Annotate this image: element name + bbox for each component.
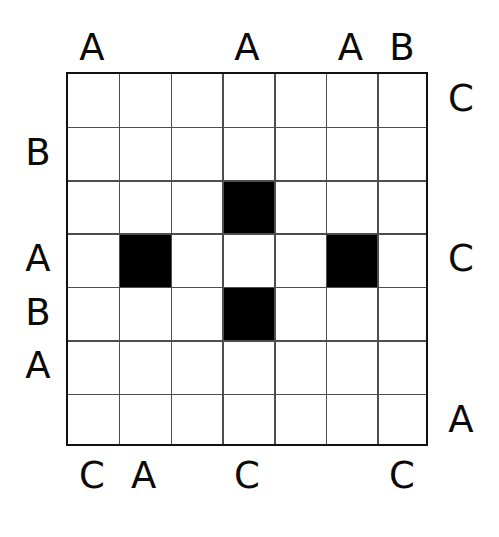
top-label-col-2 xyxy=(118,26,170,68)
left-label-row-2: B xyxy=(14,125,62,178)
bottom-label-col-7: C xyxy=(376,454,428,496)
gridline-horizontal-5 xyxy=(68,340,426,342)
gridline-horizontal-1 xyxy=(68,127,426,129)
grid-inner xyxy=(68,74,426,444)
bottom-label-col-3 xyxy=(169,454,221,496)
gridline-horizontal-3 xyxy=(68,233,426,235)
left-label-row-5: B xyxy=(14,286,62,339)
right-label-row-5 xyxy=(437,286,485,339)
bottom-label-col-5 xyxy=(273,454,325,496)
grid-cell-filled-r3-c4[interactable] xyxy=(223,181,275,234)
left-label-row-3 xyxy=(14,179,62,232)
gridline-horizontal-2 xyxy=(68,180,426,182)
right-label-row-6 xyxy=(437,339,485,392)
gridline-vertical-5 xyxy=(326,74,328,444)
top-label-col-5 xyxy=(273,26,325,68)
gridline-vertical-4 xyxy=(274,74,276,444)
puzzle-grid[interactable] xyxy=(66,72,428,446)
left-label-row-6: A xyxy=(14,339,62,392)
gridline-vertical-6 xyxy=(377,74,379,444)
grid-cell-filled-r4-c2[interactable] xyxy=(120,234,172,287)
puzzle-canvas: A A A B C A C C B A B A C C A xyxy=(0,0,499,537)
top-label-col-4: A xyxy=(221,26,273,68)
left-label-row-1 xyxy=(14,72,62,125)
grid-cell-filled-r5-c4[interactable] xyxy=(223,288,275,341)
gridline-vertical-2 xyxy=(171,74,173,444)
right-label-row-7: A xyxy=(437,392,485,445)
bottom-label-col-1: C xyxy=(66,454,118,496)
right-label-row-3 xyxy=(437,179,485,232)
left-label-row-4: A xyxy=(14,232,62,285)
right-label-row-4: C xyxy=(437,232,485,285)
gridline-horizontal-6 xyxy=(68,394,426,396)
top-label-col-1: A xyxy=(66,26,118,68)
top-label-col-7: B xyxy=(376,26,428,68)
left-label-row-7 xyxy=(14,392,62,445)
bottom-label-col-2: A xyxy=(118,454,170,496)
gridline-vertical-1 xyxy=(119,74,121,444)
gridline-horizontal-4 xyxy=(68,287,426,289)
top-label-col-3 xyxy=(169,26,221,68)
bottom-label-col-4: C xyxy=(221,454,273,496)
gridline-vertical-3 xyxy=(222,74,224,444)
top-label-col-6: A xyxy=(325,26,377,68)
right-label-row-1: C xyxy=(437,72,485,125)
bottom-label-col-6 xyxy=(325,454,377,496)
right-label-row-2 xyxy=(437,125,485,178)
grid-cell-filled-r4-c6[interactable] xyxy=(327,234,379,287)
